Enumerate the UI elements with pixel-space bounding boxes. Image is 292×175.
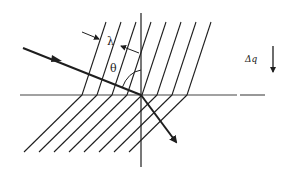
upper-wavefronts [82, 22, 211, 95]
delta-q-label: Δq [244, 54, 257, 64]
incident-ray [23, 48, 141, 95]
angle-label: θ [110, 62, 117, 75]
refraction-diagram: λ θ Δq [0, 0, 292, 175]
incident-arrow-icon [51, 55, 62, 62]
wavelength-label: λ [107, 35, 114, 48]
angle-arc [122, 70, 141, 88]
